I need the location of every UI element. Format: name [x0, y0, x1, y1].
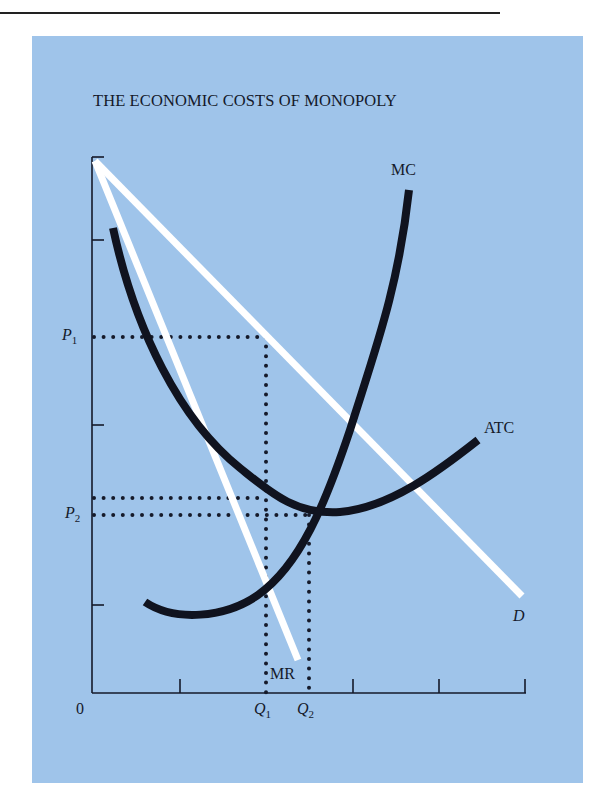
p1-letter: P: [62, 326, 72, 343]
q1-letter: Q: [254, 700, 266, 717]
dotted-guides: [94, 337, 309, 693]
p1-label: P1: [62, 326, 77, 344]
plot-area: [0, 0, 611, 808]
mc-label: MC: [391, 161, 416, 179]
p1-subscript: 1: [72, 334, 78, 346]
origin-label: 0: [76, 700, 84, 718]
q1-subscript: 1: [266, 708, 272, 720]
demand-label: D: [513, 607, 525, 625]
q2-subscript: 2: [309, 708, 315, 720]
p2-letter: P: [65, 504, 75, 521]
q1-label: Q1: [254, 700, 271, 718]
p2-label: P2: [65, 504, 80, 522]
p2-subscript: 2: [75, 512, 81, 524]
atc-label: ATC: [484, 419, 514, 437]
q2-label: Q2: [297, 700, 314, 718]
q2-letter: Q: [297, 700, 309, 717]
mr-label: MR: [270, 665, 295, 683]
